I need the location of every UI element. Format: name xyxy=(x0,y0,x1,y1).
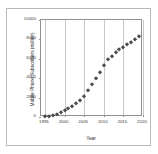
x-tick-mark xyxy=(143,115,144,117)
x-tick-label: 2010 xyxy=(98,120,108,124)
data-point xyxy=(118,47,122,51)
gridline-vertical xyxy=(84,20,85,115)
data-point xyxy=(106,57,110,61)
data-point xyxy=(82,94,86,98)
y-tick-mark xyxy=(39,20,41,21)
data-point xyxy=(98,70,102,74)
data-point xyxy=(129,40,133,44)
y-tick-mark xyxy=(39,117,41,118)
gridline-vertical xyxy=(123,20,124,115)
x-tick-label: 1995 xyxy=(39,120,49,124)
data-point xyxy=(125,42,129,46)
x-axis-title: Year xyxy=(40,137,142,142)
y-axis-title: Mobile Phone Subscribers (million) xyxy=(31,21,36,117)
x-tick-label: 2000 xyxy=(59,120,69,124)
gridline-vertical xyxy=(45,20,46,115)
gridline-vertical xyxy=(143,20,144,115)
x-tick-mark xyxy=(65,115,66,117)
y-tick-mark xyxy=(39,98,41,99)
x-tick-label: 2020 xyxy=(137,120,147,124)
x-tick-mark xyxy=(123,115,124,117)
x-tick-mark xyxy=(84,115,85,117)
data-point xyxy=(74,101,78,105)
data-point xyxy=(114,50,118,54)
data-point xyxy=(110,54,114,58)
data-point xyxy=(90,82,94,86)
y-tick-mark xyxy=(39,78,41,79)
data-point xyxy=(133,37,137,41)
chart-figure: 199520002005201020152020 020004000600080… xyxy=(6,8,151,146)
data-point xyxy=(102,64,106,68)
data-point xyxy=(86,88,90,92)
x-tick-mark xyxy=(104,115,105,117)
data-point xyxy=(55,112,59,116)
x-tick-label: 2005 xyxy=(78,120,88,124)
y-tick-mark xyxy=(39,39,41,40)
data-point xyxy=(71,104,75,108)
data-point xyxy=(137,34,141,38)
data-point xyxy=(78,98,82,102)
plot-area xyxy=(40,19,142,116)
gridline-vertical xyxy=(104,20,105,115)
data-point xyxy=(43,114,47,118)
x-tick-label: 2015 xyxy=(117,120,127,124)
y-tick-mark xyxy=(39,59,41,60)
data-point xyxy=(94,76,98,80)
gridline-vertical xyxy=(65,20,66,115)
